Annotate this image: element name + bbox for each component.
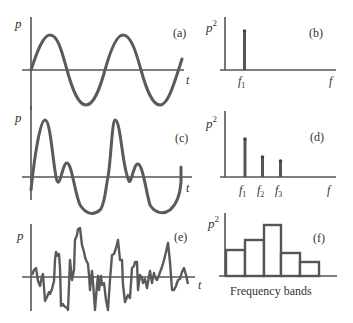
panel-a-sine-wave: p t (a) [14,16,190,110]
panel-f-band-3 [264,225,281,276]
panel-f-ylabel: p2 [207,214,219,231]
panel-b-ylabel: p2 [205,18,217,35]
panel-c-tag: (c) [175,131,188,145]
panel-d-tag: (d) [310,130,324,144]
panel-c-complex-wave: p t (c) [14,106,192,213]
panel-f-band-4 [281,253,300,276]
panel-b-xlabel: f [329,74,334,88]
panel-f-band-spectrum: p2 (f) Frequency bands [207,213,337,298]
panel-b-stem-tip [243,29,247,33]
panel-f-tag: (f) [313,231,325,245]
panel-c-complex-curve [31,120,181,213]
panel-e-tag: (e) [174,230,187,244]
panel-c-ylabel: p [14,110,22,125]
panel-c-xlabel: t [186,181,190,195]
panel-e-noise-curve [32,228,188,310]
panel-d-stem-f1-tip [243,137,247,141]
panel-a-tag: (a) [173,26,186,40]
panel-f-xlabel: Frequency bands [230,284,312,298]
panel-e-random-noise: p t (e) [16,224,202,311]
panel-d-line-spectrum: p2 (d) f1 f2 f3 f [205,111,336,199]
panel-b-tag: (b) [309,26,323,40]
panel-e-ylabel: p [16,228,24,243]
panel-f-band-1 [226,250,245,276]
panel-d-tick-f2: f2 [257,183,264,199]
panel-d-stem-f3-tip [279,159,283,163]
panel-b-line-spectrum: p2 (b) f1 f [205,17,336,90]
panel-a-ylabel: p [14,16,22,31]
panel-e-xlabel: t [198,278,202,292]
acoustic-signal-spectrum-figure: p t (a) p2 (b) f1 f p t (c) p2 (d) f1 f2 [0,0,353,323]
panel-d-stem-f2-tip [261,155,265,159]
panel-f-band-2 [245,240,264,276]
panel-f-band-5 [300,262,319,276]
panel-d-tick-f1: f1 [239,183,246,199]
panel-a-xlabel: t [186,73,190,87]
panel-b-tick-f1: f1 [238,74,245,90]
panel-d-ylabel: p2 [205,114,217,131]
panel-d-tick-f3: f3 [275,183,282,199]
panel-d-xlabel: f [327,183,332,197]
